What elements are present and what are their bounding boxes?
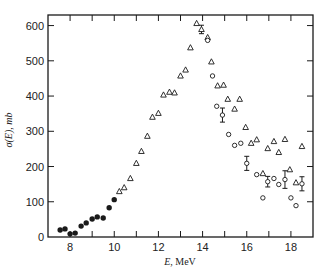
open-triangle-point (199, 26, 205, 31)
open-triangle-point (183, 67, 189, 72)
open-triangle-point (194, 20, 200, 25)
filled-circle-point (78, 223, 83, 228)
filled-circle-point (62, 226, 67, 231)
open-circle-point (300, 182, 304, 186)
open-triangle-point (243, 124, 249, 129)
y-axis-label: σ(E), mb (3, 113, 15, 148)
plot-border (48, 15, 313, 237)
open-triangle-point (128, 175, 134, 180)
filled-circle-point (84, 220, 89, 225)
open-triangle-point (225, 96, 231, 101)
y-tick-label: 500 (26, 55, 44, 67)
data-points (57, 20, 304, 236)
y-axis-variable: σ(E), (3, 127, 15, 147)
cross-section-chart: 81012141618 0100200300400500600 E, MeV σ… (0, 0, 332, 277)
open-triangle-point (139, 148, 145, 153)
open-triangle-point (172, 90, 178, 95)
open-triangle-point (145, 133, 151, 138)
filled-circle-point (67, 231, 72, 236)
open-triangle-point (282, 136, 288, 141)
open-triangle-point (134, 160, 140, 165)
open-triangle-point (161, 92, 167, 97)
y-axis-ticks: 0100200300400500600 (26, 20, 313, 243)
open-circle-point (220, 113, 224, 117)
open-triangle-point (237, 96, 243, 101)
y-tick-label: 0 (38, 231, 44, 243)
x-tick-label: 12 (152, 241, 164, 253)
open-circle-point (261, 196, 265, 200)
open-circle-point (245, 161, 249, 165)
y-tick-label: 600 (26, 20, 44, 32)
x-tick-label: 8 (67, 241, 73, 253)
x-tick-label: 14 (196, 241, 208, 253)
y-tick-label: 200 (26, 161, 44, 173)
x-tick-label: 18 (285, 241, 297, 253)
open-triangle-point (287, 167, 293, 172)
open-triangle-point (265, 145, 271, 150)
open-circle-point (266, 179, 270, 183)
filled-circle-point (57, 227, 62, 232)
plot-frame (48, 15, 313, 237)
open-circle-point (232, 143, 236, 147)
open-triangle-point (221, 82, 227, 87)
open-triangle-point (156, 110, 162, 115)
x-axis-unit: MeV (173, 256, 197, 267)
open-triangle-point (254, 137, 260, 142)
open-circle-point (289, 196, 293, 200)
open-circle-point (272, 176, 276, 180)
y-tick-label: 300 (26, 125, 44, 137)
y-tick-label: 100 (26, 196, 44, 208)
filled-circle-point (101, 215, 106, 220)
open-circle-point (283, 177, 287, 181)
open-triangle-point (178, 73, 184, 78)
open-triangle-point (271, 138, 277, 143)
x-tick-label: 10 (108, 241, 120, 253)
filled-circle-point (95, 214, 100, 219)
open-circle-point (226, 132, 230, 136)
open-triangle-point (150, 114, 156, 119)
open-triangle-point (121, 185, 127, 190)
open-circle-point (205, 38, 209, 42)
open-circle-point (277, 182, 281, 186)
open-triangle-point (188, 45, 194, 50)
open-triangle-point (215, 83, 221, 88)
open-triangle-point (248, 140, 254, 145)
open-triangle-point (299, 143, 305, 148)
x-axis-label: E, MeV (163, 256, 196, 267)
open-circle-point (254, 172, 258, 176)
filled-circle-point (72, 230, 77, 235)
x-axis-variable: E, (163, 256, 173, 267)
open-circle-point (294, 203, 298, 207)
open-triangle-point (209, 59, 215, 64)
open-triangle-point (293, 180, 299, 185)
x-tick-label: 16 (241, 241, 253, 253)
filled-circle-point (112, 197, 117, 202)
open-circle-point (239, 141, 243, 145)
filled-circle-point (106, 205, 111, 210)
open-circle-point (215, 104, 219, 108)
open-triangle-point (232, 106, 238, 111)
open-triangle-point (260, 170, 266, 175)
filled-circle-point (89, 216, 94, 221)
y-tick-label: 400 (26, 90, 44, 102)
open-triangle-point (167, 89, 173, 94)
open-circle-point (210, 74, 214, 78)
y-axis-unit: mb (3, 113, 14, 128)
open-triangle-point (276, 149, 282, 154)
